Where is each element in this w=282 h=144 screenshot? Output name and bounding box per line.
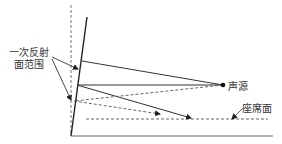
upper-incident-ray [82, 61, 223, 85]
sound-source-label: 声源 [228, 81, 248, 92]
solid-reflected-ray [77, 85, 191, 118]
seating-plane-label: 座席面 [242, 103, 272, 114]
reflection-range-label-line1: 一次反射 [9, 47, 49, 58]
sound-source-dot [221, 83, 226, 88]
inclined-wall [71, 17, 87, 136]
dashed-reflected-ray [74, 101, 160, 114]
reflection-diagram [0, 0, 282, 144]
reflection-range-label-line2: 面范围 [14, 59, 44, 70]
dashed-incident-ray [74, 85, 223, 101]
pointer-arrow-lower [52, 59, 71, 100]
